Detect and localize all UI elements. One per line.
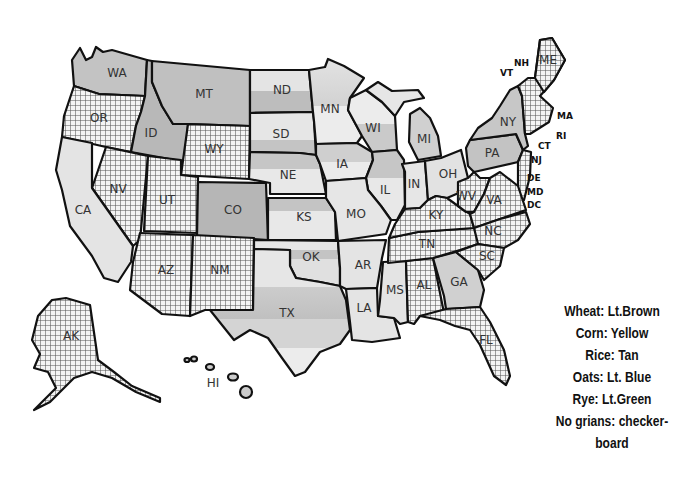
- state-label-la: LA: [356, 301, 372, 315]
- state-label-ca: CA: [75, 203, 92, 217]
- state-label-wa: WA: [107, 66, 127, 80]
- state-label-il: IL: [380, 183, 391, 197]
- state-label-oh: OH: [439, 167, 457, 181]
- state-label-in: IN: [408, 177, 421, 191]
- state-label-nm: NM: [210, 263, 229, 277]
- state-label-me: ME: [539, 53, 557, 67]
- legend-item-no-grains-cont: board: [540, 432, 684, 454]
- state-label-ky: KY: [429, 208, 444, 222]
- state-label-wi: WI: [365, 121, 380, 135]
- state-label-wv: WV: [456, 189, 477, 203]
- legend-item-rye: Rye: Lt.Green: [540, 388, 684, 410]
- state-fl: [420, 307, 510, 385]
- state-label-fl: FL: [479, 333, 493, 347]
- state-label-mi: MI: [417, 132, 431, 146]
- state-label-ok: OK: [302, 250, 320, 264]
- state-label-ar: AR: [355, 258, 372, 272]
- state-label-tx: TX: [278, 306, 295, 320]
- state-label-hi: HI: [207, 376, 220, 390]
- legend-item-no-grains: No grians: checker-: [540, 410, 684, 432]
- state-label-ne: NE: [280, 168, 297, 182]
- state-label-ga: GA: [450, 275, 468, 289]
- legend-item-oats: Oats: Lt. Blue: [540, 366, 684, 388]
- state-label-sd: SD: [273, 127, 290, 141]
- state-label-ks: KS: [296, 210, 312, 224]
- state-label-tn: TN: [418, 237, 435, 251]
- state-label-nc: NC: [484, 224, 501, 238]
- state-label-mo: MO: [346, 207, 366, 221]
- state-label-mn: MN: [320, 102, 339, 116]
- state-label-mt: MT: [195, 87, 213, 101]
- legend-item-rice: Rice: Tan: [540, 344, 684, 366]
- state-label-ct: CT: [538, 141, 552, 151]
- state-label-id: ID: [145, 126, 158, 140]
- state-label-ny: NY: [500, 115, 517, 129]
- state-label-de: DE: [527, 173, 541, 183]
- state-label-dc: DC: [527, 200, 541, 210]
- state-label-al: AL: [417, 278, 432, 292]
- legend-item-wheat: Wheat: Lt.Brown: [540, 300, 684, 322]
- state-label-or: OR: [90, 111, 108, 125]
- state-label-nv: NV: [109, 182, 127, 196]
- state-label-pa: PA: [485, 146, 500, 160]
- state-label-ms: MS: [386, 283, 404, 297]
- state-label-ma: MA: [557, 111, 573, 121]
- state-label-ak: AK: [63, 329, 80, 343]
- state-label-ri: RI: [556, 131, 566, 141]
- state-label-vt: VT: [500, 68, 514, 78]
- state-label-va: VA: [486, 193, 502, 207]
- state-label-co: CO: [224, 203, 242, 217]
- state-label-nj: NJ: [531, 155, 542, 165]
- state-label-nd: ND: [273, 83, 291, 97]
- state-label-nh: NH: [514, 58, 529, 68]
- legend-item-corn: Corn: Yellow: [540, 322, 684, 344]
- state-label-ia: IA: [336, 157, 349, 171]
- state-label-az: AZ: [158, 263, 174, 277]
- state-label-sc: SC: [479, 249, 495, 263]
- state-label-wy: WY: [204, 142, 224, 156]
- state-label-md: MD: [527, 187, 543, 197]
- state-ak: [32, 298, 160, 410]
- legend: Wheat: Lt.Brown Corn: Yellow Rice: Tan O…: [540, 300, 684, 454]
- state-label-ut: UT: [159, 193, 176, 207]
